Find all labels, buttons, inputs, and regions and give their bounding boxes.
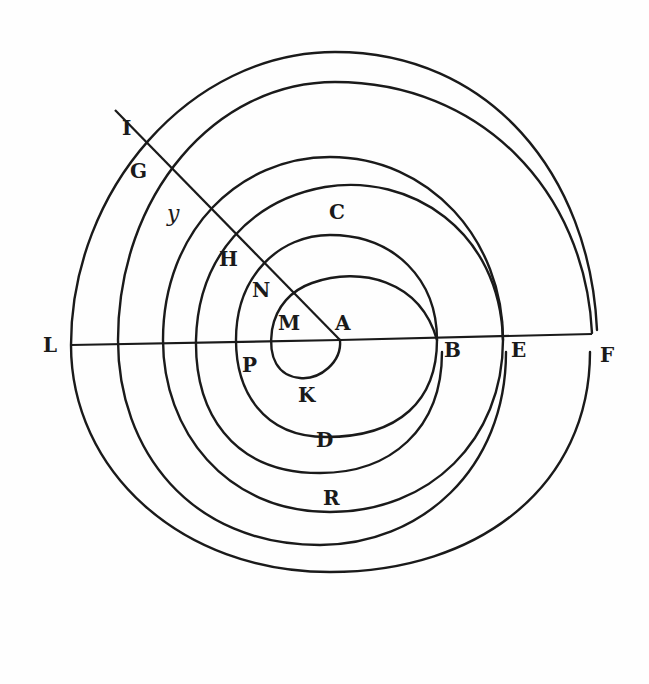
label-P: P (242, 353, 257, 377)
label-A: A (334, 311, 351, 335)
label-K: K (298, 383, 316, 407)
spiral-third-turn (118, 82, 592, 545)
label-C: C (329, 200, 345, 224)
label-M: M (278, 311, 300, 335)
label-R: R (323, 486, 340, 510)
label-G: G (130, 159, 147, 183)
label-B: B (444, 338, 461, 362)
diagram-canvas: A B C D E F G H I K L M N P R y (0, 0, 649, 684)
label-N: N (252, 278, 270, 302)
label-E: E (511, 338, 526, 362)
label-F: F (600, 343, 614, 367)
label-H: H (219, 247, 238, 271)
label-L: L (43, 333, 57, 357)
label-y: y (166, 201, 180, 226)
line-AI (115, 110, 340, 340)
spiral-diagram: A B C D E F G H I K L M N P R y (0, 0, 649, 684)
label-I: I (122, 116, 131, 140)
label-D: D (316, 428, 333, 452)
